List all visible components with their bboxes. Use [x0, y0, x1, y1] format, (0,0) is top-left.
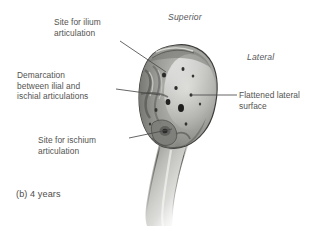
label-site-for-ischium-articulation: Site for ischium articulation — [38, 135, 96, 156]
orientation-label-lateral: Lateral — [247, 52, 274, 62]
label-site-for-ilium-articulation: Site for ilium articulation — [54, 17, 101, 38]
orientation-label-superior: Superior — [168, 12, 202, 22]
label-flattened-lateral-surface: Flattened lateral surface — [239, 90, 300, 111]
label-demarcation-between-ilial-and-ischial-articulations: Demarcation between ilial and ischial ar… — [17, 70, 88, 102]
figure-caption: (b) 4 years — [16, 189, 61, 199]
bone-shaft — [146, 140, 190, 226]
bone-body — [136, 45, 217, 150]
anatomical-figure: Site for ilium articulation Demarcation … — [0, 0, 320, 231]
